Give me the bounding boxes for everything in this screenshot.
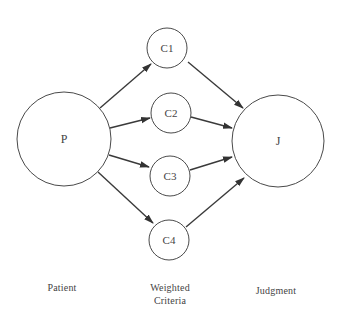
node-patient: P xyxy=(17,92,111,186)
caption-criteria: Criteria xyxy=(135,294,205,307)
node-criterion-c3: C3 xyxy=(150,156,190,196)
node-label-c4: C4 xyxy=(163,234,176,246)
edge-p-c1 xyxy=(100,64,151,108)
node-criterion-c1: C1 xyxy=(147,28,187,68)
edge-c4-j xyxy=(186,178,244,227)
edge-c3-j xyxy=(190,157,232,170)
lens-model-diagram: P C1 C2 C3 C4 J xyxy=(0,0,342,310)
edge-p-c3 xyxy=(109,155,149,167)
node-label-j: J xyxy=(276,134,281,148)
node-criterion-c4: C4 xyxy=(149,220,189,260)
caption-weighted-criteria: Weighted Criteria xyxy=(135,281,205,307)
node-judgment: J xyxy=(232,95,324,187)
node-label-p: P xyxy=(61,132,68,146)
node-criterion-c2: C2 xyxy=(151,93,191,133)
node-label-c2: C2 xyxy=(165,107,178,119)
node-label-c3: C3 xyxy=(164,170,177,182)
edge-c1-j xyxy=(188,62,243,108)
node-label-c1: C1 xyxy=(161,42,174,54)
caption-patient: Patient xyxy=(32,281,92,294)
caption-judgment: Judgment xyxy=(241,284,311,297)
caption-weighted: Weighted xyxy=(135,281,205,294)
edge-p-c4 xyxy=(98,172,153,223)
edge-p-c2 xyxy=(110,118,150,128)
edge-c2-j xyxy=(191,117,232,128)
